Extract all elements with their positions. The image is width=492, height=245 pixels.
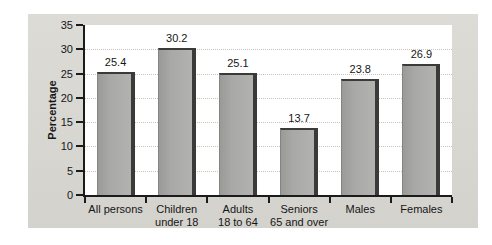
y-tick: [76, 194, 83, 196]
y-tick: [76, 170, 83, 172]
bar-value-label: 13.7: [288, 112, 309, 124]
category-label: All persons: [85, 203, 146, 216]
category-label-line: Children: [146, 203, 207, 216]
bar: [402, 64, 440, 195]
gridline: [85, 122, 452, 123]
y-tick-label: 15: [49, 115, 73, 129]
gridline: [85, 49, 452, 50]
bar: [97, 72, 135, 195]
category-label-line: Adults: [207, 203, 268, 216]
y-tick-label: 10: [49, 139, 73, 153]
y-tick-label: 30: [49, 42, 73, 56]
category-label-line: 65 and over: [269, 216, 330, 229]
category-label: Males: [330, 203, 391, 216]
bar-value-label: 25.1: [227, 57, 248, 69]
figure: 25.430.225.113.723.826.9 Percentage 0510…: [0, 0, 492, 245]
category-label: Seniors65 and over: [269, 203, 330, 229]
y-tick: [76, 145, 83, 147]
gridline: [85, 171, 452, 172]
bar: [341, 79, 379, 195]
category-label-line: All persons: [85, 203, 146, 216]
category-label: Adults18 to 64: [207, 203, 268, 229]
y-tick: [76, 48, 83, 50]
bar: [280, 128, 318, 195]
bar-value-label: 26.9: [411, 48, 432, 60]
category-label-line: under 18: [146, 216, 207, 229]
y-tick: [76, 97, 83, 99]
category-label: Childrenunder 18: [146, 203, 207, 229]
category-label: Females: [391, 203, 452, 216]
bar: [158, 48, 196, 195]
y-tick: [76, 24, 83, 26]
category-label-line: Seniors: [269, 203, 330, 216]
category-label-line: 18 to 64: [207, 216, 268, 229]
gridline: [85, 146, 452, 147]
y-tick: [76, 121, 83, 123]
bar-value-label: 30.2: [166, 32, 187, 44]
gridline: [85, 98, 452, 99]
plot-area: 25.430.225.113.723.826.9: [83, 25, 452, 197]
y-tick: [76, 73, 83, 75]
category-label-line: Females: [391, 203, 452, 216]
y-tick-label: 35: [49, 18, 73, 32]
bar: [219, 73, 257, 195]
bar-value-label: 25.4: [105, 56, 126, 68]
y-tick-label: 25: [49, 67, 73, 81]
bar-value-label: 23.8: [350, 63, 371, 75]
category-label-line: Males: [330, 203, 391, 216]
y-tick-label: 5: [49, 164, 73, 178]
gridline: [85, 74, 452, 75]
y-tick-label: 20: [49, 91, 73, 105]
y-tick-label: 0: [49, 188, 73, 202]
